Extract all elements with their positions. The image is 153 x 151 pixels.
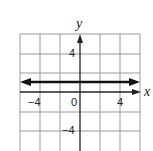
x-tick-neg4: −4	[28, 96, 41, 108]
x-tick-0: 0	[71, 96, 77, 108]
y-tick-neg4: −4	[62, 124, 75, 136]
y-axis-label: y	[74, 16, 83, 31]
y-tick-4: 4	[69, 47, 75, 59]
x-axis-label: x	[143, 84, 151, 99]
graph: y x −4 0 4 4 −4	[0, 0, 153, 151]
x-tick-4: 4	[117, 96, 123, 108]
